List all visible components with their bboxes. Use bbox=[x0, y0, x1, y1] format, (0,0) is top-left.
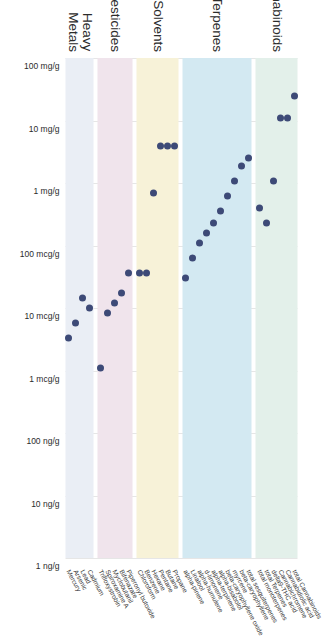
group-band bbox=[255, 58, 297, 558]
x-axis-tick-label: 10 ng/g bbox=[31, 499, 59, 509]
data-point bbox=[118, 290, 125, 297]
data-point bbox=[97, 365, 104, 372]
data-point bbox=[65, 335, 72, 342]
x-axis-tick-label: 10 mg/g bbox=[28, 124, 59, 134]
data-point bbox=[150, 190, 157, 197]
group-label: Cannabinoids bbox=[269, 0, 283, 52]
data-point bbox=[209, 220, 216, 227]
data-point bbox=[203, 230, 210, 237]
data-point bbox=[143, 270, 150, 277]
data-point bbox=[171, 142, 178, 149]
data-point bbox=[196, 240, 203, 247]
data-point bbox=[223, 192, 230, 199]
data-point bbox=[290, 92, 297, 99]
x-axis-tick-label: 1 mg/g bbox=[33, 186, 59, 196]
x-axis-tick-label: 100 mcg/g bbox=[19, 249, 59, 259]
grid-line bbox=[65, 558, 297, 559]
data-point bbox=[104, 310, 111, 317]
data-point bbox=[230, 177, 237, 184]
x-axis-tick-label: 1 ng/g bbox=[35, 561, 59, 571]
data-point bbox=[164, 142, 171, 149]
data-point bbox=[244, 155, 251, 162]
data-point bbox=[276, 115, 283, 122]
data-point bbox=[125, 270, 132, 277]
x-axis-tick-label: 10 mcg/g bbox=[24, 311, 59, 321]
group-label: Residual Solvents bbox=[150, 0, 164, 52]
data-point bbox=[182, 275, 189, 282]
group-band bbox=[97, 58, 132, 558]
group-band bbox=[136, 58, 178, 558]
data-point bbox=[86, 305, 93, 312]
chart-figure: Cannabinoidstotal CannabinoidsCannabidio… bbox=[0, 0, 325, 642]
data-point bbox=[255, 205, 262, 212]
data-point bbox=[72, 320, 79, 327]
data-point bbox=[237, 162, 244, 169]
x-axis-tick-label: 1 mcg/g bbox=[29, 374, 59, 384]
data-point bbox=[269, 177, 276, 184]
group-label: Heavy Metals bbox=[65, 12, 93, 52]
data-point bbox=[262, 220, 269, 227]
data-point bbox=[283, 115, 290, 122]
group-label: Terpenes bbox=[209, 0, 223, 52]
data-point bbox=[189, 255, 196, 262]
group-label: Pesticides bbox=[107, 0, 121, 52]
data-point bbox=[136, 270, 143, 277]
data-point bbox=[111, 300, 118, 307]
x-axis-tick-label: 100 ng/g bbox=[26, 436, 59, 446]
x-axis-tick-label: 100 mg/g bbox=[24, 61, 59, 71]
data-point bbox=[79, 295, 86, 302]
plot-area: Cannabinoidstotal CannabinoidsCannabidio… bbox=[65, 58, 297, 558]
group-band bbox=[182, 58, 251, 558]
data-point bbox=[157, 142, 164, 149]
data-point bbox=[216, 207, 223, 214]
chart-canvas: Cannabinoidstotal CannabinoidsCannabidio… bbox=[0, 0, 325, 642]
